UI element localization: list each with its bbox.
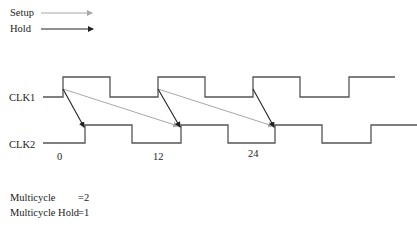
hold-arrow-3 [253, 89, 274, 127]
clk1-waveform [43, 77, 395, 97]
clk2-waveform [43, 125, 417, 143]
timing-diagram [0, 0, 417, 232]
